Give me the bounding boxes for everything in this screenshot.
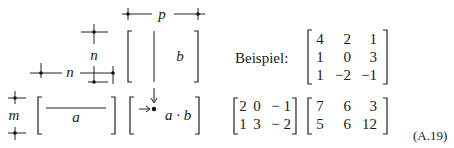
- example-label: Beispiel:: [235, 50, 288, 66]
- matrix-a-cell: 3: [253, 116, 261, 132]
- matrix-b-cell: 3: [370, 49, 378, 65]
- matrix-b-cell: −1: [361, 67, 377, 83]
- matrix-b-cell: 1: [316, 67, 324, 83]
- matrix-ab-cell: 12: [362, 116, 377, 132]
- matrix-a-cell: − 1: [271, 98, 291, 114]
- matrix-ab-cell: 5: [316, 116, 324, 132]
- matrix-b-cell: −2: [335, 67, 351, 83]
- matrix-b-schematic: b: [128, 31, 198, 82]
- matrix-ab-cell: 6: [344, 116, 352, 132]
- matrix-a-cell: − 2: [271, 116, 291, 132]
- matrix-ab-schematic: a · b: [130, 88, 199, 134]
- m-dimension: m: [8, 91, 26, 140]
- n-horizontal-label: n: [66, 64, 74, 80]
- b-label: b: [176, 48, 184, 64]
- example-matrix-a: 2 0 − 1 1 3 − 2: [234, 98, 296, 134]
- ab-label: a · b: [165, 107, 192, 123]
- element-dot: [152, 107, 156, 111]
- matrix-a-cell: 1: [239, 116, 247, 132]
- example-matrix-ab: 7 6 3 5 6 12: [308, 98, 387, 134]
- p-dimension: p: [122, 6, 205, 22]
- a-label: a: [72, 109, 80, 125]
- n-horizontal-dimension: n: [30, 63, 115, 84]
- matrix-ab-cell: 7: [316, 98, 324, 114]
- matrix-ab-cell: 3: [370, 98, 378, 114]
- p-label: p: [157, 6, 166, 22]
- matrix-b-cell: 4: [316, 31, 324, 47]
- n-vertical-label: n: [90, 47, 98, 63]
- matrix-a-cell: 0: [253, 98, 261, 114]
- matrix-b-cell: 0: [344, 49, 352, 65]
- matrix-a-schematic: a: [38, 97, 115, 134]
- matrix-b-cell: 1: [316, 49, 324, 65]
- m-label: m: [9, 107, 20, 123]
- example-matrix-b: 4 2 1 1 0 3 1 −2 −1: [308, 30, 387, 84]
- equation-number: (A.19): [413, 128, 447, 143]
- matrix-multiplication-figure: p b n n m: [0, 0, 454, 148]
- matrix-b-cell: 2: [344, 31, 352, 47]
- matrix-ab-cell: 6: [344, 98, 352, 114]
- matrix-b-cell: 1: [370, 31, 378, 47]
- n-vertical-dimension: n: [81, 24, 108, 84]
- matrix-a-cell: 2: [239, 98, 247, 114]
